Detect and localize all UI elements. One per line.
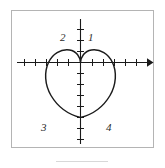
plot-canvas xyxy=(0,0,165,168)
axes-group xyxy=(17,19,154,144)
cardioid-figure: 1 2 3 4 xyxy=(0,0,165,168)
region-label-4: 4 xyxy=(106,122,112,133)
region-label-2: 2 xyxy=(60,32,66,43)
region-label-3: 3 xyxy=(41,122,47,133)
region-label-1: 1 xyxy=(88,32,94,43)
scan-artifact-line xyxy=(56,161,108,162)
x-axis-arrowhead xyxy=(147,58,154,66)
